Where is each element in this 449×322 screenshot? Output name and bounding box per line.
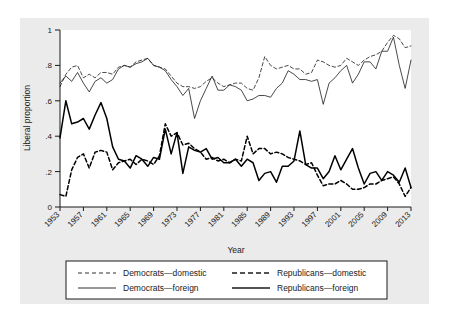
x-tick-label: 1989	[253, 210, 272, 229]
legend-box	[66, 261, 387, 299]
legend-label-2[interactable]: Democrats—foreign	[123, 283, 199, 293]
x-tick-label: 1965	[113, 210, 132, 229]
x-tick-label: 1993	[276, 210, 295, 229]
x-tick-label: 2001	[323, 210, 342, 229]
plot-area-background	[60, 30, 411, 207]
x-tick-label: 2009	[370, 210, 389, 229]
x-tick-label: 1985	[230, 210, 249, 229]
y-tick-label: .2	[45, 168, 52, 177]
y-axis-ticks: 0.2.4.6.81	[45, 26, 60, 212]
y-tick-label: .8	[45, 61, 52, 70]
x-tick-label: 1977	[183, 210, 202, 229]
y-tick-label: 1	[48, 26, 53, 35]
figure-root: 0.2.4.6.81 19531957196119651969197319771…	[0, 0, 449, 322]
y-tick-label: 0	[48, 203, 53, 212]
legend-label-0[interactable]: Democrats—domestic	[123, 268, 207, 278]
y-axis-title: Liberal proportion	[22, 85, 32, 151]
liberal-proportion-line-chart: 0.2.4.6.81 19531957196119651969197319771…	[0, 0, 449, 322]
legend-label-1[interactable]: Republicans—domestic	[277, 268, 367, 278]
x-tick-label: 1953	[42, 210, 61, 229]
x-tick-label: 1957	[66, 210, 85, 229]
x-tick-label: 1997	[300, 210, 319, 229]
x-axis-ticks: 1953195719611965196919731977198119851989…	[42, 207, 412, 229]
x-axis-title: Year	[227, 245, 244, 255]
x-tick-label: 1961	[89, 210, 108, 229]
y-tick-label: .6	[45, 97, 52, 106]
x-tick-label: 2005	[347, 210, 366, 229]
x-tick-label: 2013	[393, 210, 412, 229]
legend-label-3[interactable]: Republicans—foreign	[277, 283, 359, 293]
y-tick-label: .4	[45, 132, 52, 141]
x-tick-label: 1981	[206, 210, 225, 229]
x-tick-label: 1969	[136, 210, 155, 229]
x-tick-label: 1973	[159, 210, 178, 229]
